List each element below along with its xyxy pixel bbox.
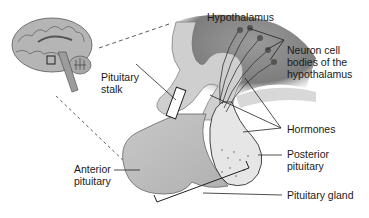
label-hormones: Hormones — [287, 123, 335, 135]
label-pituitary-gland: Pituitary gland — [287, 189, 354, 201]
label-anterior-pituitary: Anterior pituitary — [74, 163, 111, 187]
label-posterior-line1: Posterior — [287, 148, 329, 160]
label-anterior-line2: pituitary — [74, 175, 111, 187]
label-stalk-line2: stalk — [101, 83, 139, 95]
label-neuron-line1: Neuron cell — [287, 44, 352, 56]
label-neuron-cell-bodies: Neuron cell bodies of the hypothalamus — [287, 44, 352, 80]
label-hypothalamus: Hypothalamus — [207, 11, 274, 23]
label-neuron-line3: hypothalamus — [287, 68, 352, 80]
label-anterior-line1: Anterior — [74, 163, 111, 175]
label-pituitary-stalk: Pituitary stalk — [101, 71, 139, 95]
label-neuron-line2: bodies of the — [287, 56, 352, 68]
label-stalk-line1: Pituitary — [101, 71, 139, 83]
label-posterior-line2: pituitary — [287, 160, 329, 172]
diagram-canvas — [0, 0, 369, 218]
brain-icon — [12, 18, 92, 92]
label-posterior-pituitary: Posterior pituitary — [287, 148, 329, 172]
